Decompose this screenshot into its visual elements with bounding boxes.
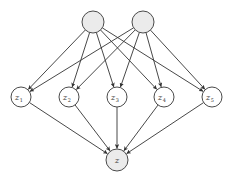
node-subscript: 1 bbox=[20, 97, 23, 103]
edge-z1-to-z bbox=[29, 102, 107, 153]
node-z4: z4 bbox=[154, 87, 174, 107]
node-subscript: 4 bbox=[163, 97, 166, 103]
node-z3: z3 bbox=[107, 87, 127, 107]
nodes-layer: z1z2z3z4z5z bbox=[11, 11, 222, 171]
node-subscript: 5 bbox=[211, 97, 214, 103]
node-subscript: 2 bbox=[68, 97, 71, 103]
node-z1: z1 bbox=[11, 87, 31, 107]
node-label: z bbox=[114, 156, 120, 165]
node-subscript: 3 bbox=[116, 97, 119, 103]
node-z2: z2 bbox=[59, 87, 79, 107]
edge-p2-to-z2 bbox=[76, 30, 135, 90]
node-circle bbox=[132, 11, 154, 33]
graphical-model-diagram: z1z2z3z4z5z bbox=[0, 0, 228, 175]
node-p2 bbox=[132, 11, 154, 33]
node-z5: z5 bbox=[202, 87, 222, 107]
edge-p1-to-z4 bbox=[101, 30, 157, 89]
edge-p1-to-z1 bbox=[28, 30, 85, 89]
edge-p2-to-z5 bbox=[150, 30, 204, 89]
node-p1 bbox=[82, 11, 104, 33]
node-circle bbox=[82, 11, 104, 33]
edge-z5-to-z bbox=[127, 103, 204, 154]
node-z: z bbox=[106, 149, 128, 171]
edge-p2-to-z1 bbox=[30, 28, 134, 92]
edge-p2-to-z4 bbox=[146, 33, 161, 87]
